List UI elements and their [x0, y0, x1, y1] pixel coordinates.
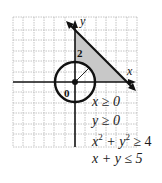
x-axis-label: x: [126, 64, 133, 78]
inequality-line: x + y ≤ 5: [92, 152, 143, 166]
ineq3-rhs: ≥ 4: [130, 134, 152, 149]
origin-label: 0: [64, 87, 70, 99]
ineq3-plus-y: + y: [103, 134, 126, 149]
inequality-circle: x2 + y2 ≥ 4: [92, 133, 152, 149]
y-axis-label: y: [79, 14, 86, 28]
y-tick-label: 2: [77, 47, 83, 59]
origin-dot: [72, 79, 78, 85]
inequality-x-nonneg: x ≥ 0: [92, 95, 120, 109]
inequality-y-nonneg: y ≥ 0: [92, 114, 120, 128]
